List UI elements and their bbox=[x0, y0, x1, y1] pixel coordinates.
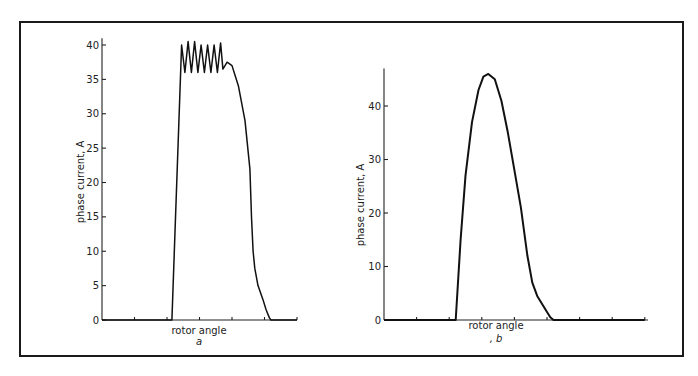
panel-b: 010203040 phase current, A rotor angle ,… bbox=[355, 69, 648, 344]
y-tick-label: 10 bbox=[368, 261, 381, 272]
y-tick-label: 35 bbox=[86, 74, 99, 85]
y-tick-label: 10 bbox=[86, 246, 99, 257]
y-tick-label: 25 bbox=[86, 143, 99, 154]
panel-a: 0510152025303540 phase current, A rotor … bbox=[75, 38, 297, 347]
y-axis-b: 010203040 bbox=[368, 69, 388, 326]
x-axis-label-a: rotor angle bbox=[171, 325, 226, 336]
y-tick-label: 40 bbox=[368, 101, 381, 112]
figure: 0510152025303540 phase current, A rotor … bbox=[0, 0, 698, 376]
y-axis-label-b: phase current, A bbox=[355, 164, 366, 247]
panel-label-a: a bbox=[196, 336, 202, 347]
y-tick-label: 40 bbox=[86, 40, 99, 51]
y-tick-label: 0 bbox=[93, 315, 99, 326]
y-tick-label: 30 bbox=[86, 108, 99, 119]
y-axis-a: 0510152025303540 bbox=[86, 38, 106, 325]
panel-label-b: , b bbox=[490, 333, 503, 344]
x-axis-label-b: rotor angle bbox=[468, 320, 523, 331]
y-tick-label: 30 bbox=[368, 154, 381, 165]
phase-current-curve-b bbox=[384, 74, 645, 320]
y-tick-label: 0 bbox=[375, 315, 381, 326]
figure-frame bbox=[20, 22, 683, 356]
y-tick-label: 5 bbox=[93, 280, 99, 291]
y-tick-label: 20 bbox=[368, 208, 381, 219]
y-axis-label-a: phase current, A bbox=[75, 141, 86, 224]
y-tick-label: 20 bbox=[86, 177, 99, 188]
y-tick-label: 15 bbox=[86, 211, 99, 222]
phase-current-curve-a bbox=[102, 42, 297, 320]
